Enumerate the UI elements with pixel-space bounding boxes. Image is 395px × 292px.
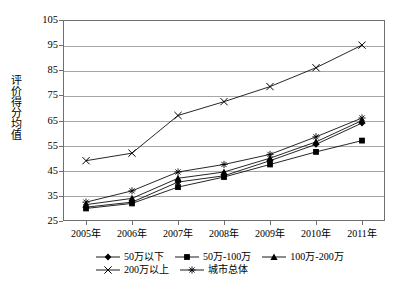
y-axis-tick-label: 85	[30, 65, 58, 75]
star-marker	[220, 161, 227, 168]
legend-marker	[95, 264, 121, 276]
x-marker	[266, 83, 273, 90]
x-axis-tick-mark	[178, 221, 179, 225]
y-axis-tick-mark	[59, 221, 63, 222]
square-marker	[184, 254, 190, 260]
triangle-marker	[128, 195, 135, 202]
legend-marker	[179, 264, 205, 276]
square-marker	[313, 149, 319, 155]
legend-marker	[174, 251, 200, 263]
chart-container: 评价得分均值 2535455565758595105 2005年2006年200…	[0, 0, 395, 292]
legend-item[interactable]: 200万以上	[95, 263, 169, 276]
x-marker	[174, 112, 181, 119]
legend-row: 50万以下50万-100万100万-200万	[95, 250, 385, 263]
x-marker	[358, 42, 365, 49]
series-line	[86, 45, 362, 161]
star-marker	[266, 151, 273, 158]
square-marker	[267, 162, 273, 168]
x-axis-tick-mark	[86, 221, 87, 225]
y-axis-tick-label: 45	[30, 166, 58, 176]
star-icon	[179, 264, 205, 276]
x-marker	[312, 64, 319, 71]
square-icon	[174, 251, 200, 263]
y-axis-title: 评价得分均值	[8, 74, 22, 140]
star-marker	[128, 187, 135, 194]
star-marker	[82, 199, 89, 206]
legend-label: 200万以上	[124, 263, 169, 276]
legend-label: 100万-200万	[290, 250, 343, 263]
x-axis-tick-mark	[224, 221, 225, 225]
series-layer	[63, 20, 385, 221]
diamond-icon	[95, 251, 121, 263]
triangle-icon	[261, 251, 287, 263]
series-x	[82, 42, 365, 165]
legend-item[interactable]: 50万-100万	[174, 250, 251, 263]
square-marker	[221, 174, 227, 180]
chart-legend: 50万以下50万-100万100万-200万200万以上城市总体	[95, 250, 385, 276]
y-axis-tick-label: 75	[30, 90, 58, 100]
x-axis-tick-label: 2011年	[335, 228, 389, 240]
square-marker	[129, 201, 135, 207]
star-marker	[174, 168, 181, 175]
x-axis-tick-mark	[270, 221, 271, 225]
y-axis-tick-label: 25	[30, 216, 58, 226]
star-marker	[312, 133, 319, 140]
legend-item[interactable]: 100万-200万	[261, 250, 343, 263]
x-axis-tick-mark	[316, 221, 317, 225]
x-icon	[95, 264, 121, 276]
square-marker	[359, 138, 365, 144]
star-marker	[358, 114, 365, 121]
square-marker	[175, 184, 181, 190]
legend-marker	[261, 251, 287, 263]
series-line	[86, 118, 362, 202]
y-axis-tick-label: 105	[30, 15, 58, 25]
legend-row: 200万以上城市总体	[95, 263, 385, 276]
legend-label: 50万以下	[124, 250, 164, 263]
y-axis-tick-label: 35	[30, 191, 58, 201]
series-star	[82, 114, 365, 205]
legend-item[interactable]: 50万以下	[95, 250, 164, 263]
y-axis-tick-label: 65	[30, 116, 58, 126]
legend-label: 50万-100万	[203, 250, 251, 263]
x-axis-tick-mark	[132, 221, 133, 225]
x-axis-tick-mark	[362, 221, 363, 225]
diamond-marker	[105, 253, 112, 260]
legend-item[interactable]: 城市总体	[179, 263, 248, 276]
legend-label: 城市总体	[208, 263, 248, 276]
legend-marker	[95, 251, 121, 263]
x-marker	[220, 98, 227, 105]
y-axis-tick-label: 55	[30, 141, 58, 151]
star-marker	[188, 266, 195, 273]
y-axis-tick-label: 95	[30, 40, 58, 50]
